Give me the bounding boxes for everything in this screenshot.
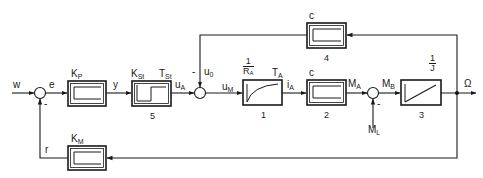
label-e: e bbox=[49, 80, 55, 90]
label-c-block-2: c bbox=[309, 68, 314, 78]
label-ma: MA bbox=[348, 79, 361, 90]
block-2-c bbox=[307, 80, 346, 105]
summing-junction-1 bbox=[35, 88, 46, 99]
label-km: KM bbox=[71, 134, 84, 145]
label-um: uM bbox=[222, 82, 233, 93]
block-km bbox=[68, 146, 106, 170]
minus-sign-3: - bbox=[377, 99, 380, 109]
label-ml: ML bbox=[368, 125, 380, 136]
label-kst: KSt bbox=[131, 69, 144, 80]
block-kp bbox=[68, 81, 106, 106]
label-ua: uA bbox=[175, 80, 185, 91]
block-3-integrator bbox=[401, 80, 441, 105]
summing-junction-3 bbox=[368, 88, 379, 99]
block-diagram-canvas bbox=[0, 0, 483, 178]
label-1-over-ra: 1 RA bbox=[243, 57, 254, 77]
label-mb: MB bbox=[382, 79, 395, 90]
block-number-5: 5 bbox=[150, 111, 155, 121]
label-r: r bbox=[45, 145, 48, 155]
label-y: y bbox=[113, 80, 118, 90]
block-number-3: 3 bbox=[419, 110, 424, 120]
label-w: w bbox=[13, 80, 20, 90]
label-1-over-j: 1 J bbox=[429, 54, 436, 73]
label-kp: KP bbox=[71, 69, 82, 80]
label-c-block-4: c bbox=[309, 11, 314, 21]
block-kst-5 bbox=[132, 81, 171, 106]
minus-sign-2: - bbox=[192, 67, 195, 77]
block-number-2: 2 bbox=[324, 110, 329, 120]
block-4-c bbox=[307, 23, 346, 48]
label-ia: iA bbox=[287, 80, 294, 91]
summing-junction-2 bbox=[195, 88, 206, 99]
block-1-lag bbox=[243, 80, 282, 105]
label-tst: TSt bbox=[159, 69, 172, 80]
minus-sign-1: - bbox=[44, 99, 47, 109]
label-u0: u0 bbox=[204, 67, 213, 78]
block-number-1: 1 bbox=[261, 110, 266, 120]
label-omega: Ω bbox=[464, 79, 471, 89]
block-number-4: 4 bbox=[324, 53, 329, 63]
label-ta: TA bbox=[272, 68, 283, 79]
